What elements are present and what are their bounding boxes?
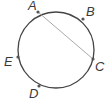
chord-ac [38, 12, 93, 59]
point-b [81, 17, 84, 20]
point-e [16, 55, 19, 58]
label-a: A [27, 0, 37, 13]
label-c: C [95, 59, 105, 74]
label-b: B [86, 4, 95, 19]
point-a [36, 10, 39, 13]
labels-group: ABCDE [4, 0, 105, 101]
label-d: D [29, 86, 38, 101]
circle-diagram: ABCDE [0, 0, 108, 101]
label-e: E [4, 54, 13, 69]
